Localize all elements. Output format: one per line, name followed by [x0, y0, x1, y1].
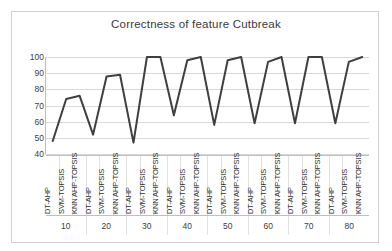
- x-axis-tick-label: DT-AHP: [205, 187, 214, 214]
- x-axis-tick-label: KNN AHP-TOPSIS: [111, 153, 120, 214]
- x-axis-tick-label: KNN AHP-TOPSIS: [151, 153, 160, 214]
- plot-area: [46, 57, 369, 154]
- y-axis-tick-label: 90: [35, 68, 44, 78]
- x-axis-tick-label: KNN AHP-TOPSIS: [313, 153, 322, 214]
- line-series: [46, 57, 369, 154]
- x-axis-group-label: 60: [249, 216, 290, 235]
- y-axis-tick-label: 70: [35, 101, 44, 111]
- x-axis-tick-label: KNN AHP-TOPSIS: [273, 153, 282, 214]
- x-axis-group-label: 50: [208, 216, 249, 235]
- x-axis-tick-label: SVM-TOPSIS: [138, 169, 147, 214]
- x-axis-group-label: 30: [127, 216, 168, 235]
- x-axis-tick-label: SVM-TOPSIS: [259, 169, 268, 214]
- x-axis-group-label: 40: [168, 216, 209, 235]
- chart-title: Correctness of feature Cutbreak: [12, 18, 380, 30]
- plot-background: [46, 57, 369, 154]
- chart-container: Correctness of feature Cutbreak 10090807…: [11, 11, 379, 243]
- x-axis-tick-label: KNN AHP-TOPSIS: [232, 153, 241, 214]
- x-axis-tick-label: SVM-TOPSIS: [57, 169, 66, 214]
- x-axis-tick-label: SVM-TOPSIS: [219, 169, 228, 214]
- x-axis-tick: KNN AHP-TOPSIS: [357, 156, 370, 215]
- x-axis-tick-label: DT-AHP: [124, 187, 133, 214]
- y-axis-labels: 100908070605040: [18, 57, 44, 154]
- y-axis-tick-label: 80: [35, 84, 44, 94]
- y-axis-tick-label: 40: [35, 149, 44, 159]
- x-axis-tick-label: SVM-TOPSIS: [178, 169, 187, 214]
- x-axis-tick-label: SVM-TOPSIS: [340, 169, 349, 214]
- x-axis-tick-label: DT-AHP: [165, 187, 174, 214]
- y-axis-tick-label: 60: [35, 117, 44, 127]
- y-axis-tick-label: 100: [30, 52, 44, 62]
- x-axis-tick-label: KNN AHP-TOPSIS: [192, 153, 201, 214]
- x-axis-labels: DT-AHPSVM-TOPSISKNN AHP-TOPSISDT-AHPSVM-…: [46, 155, 369, 215]
- x-axis-tick-label: DT-AHP: [246, 187, 255, 214]
- x-axis-tick-label: DT-AHP: [327, 187, 336, 214]
- x-axis-tick-label: DT-AHP: [84, 187, 93, 214]
- x-axis-tick-label: DT-AHP: [286, 187, 295, 214]
- x-axis-group-label: 80: [330, 216, 370, 235]
- x-axis-group-label: 70: [289, 216, 330, 235]
- x-axis-tick-label: SVM-TOPSIS: [97, 169, 106, 214]
- x-axis-group-label: 20: [87, 216, 128, 235]
- x-axis-group-labels: 1020304050607080: [46, 215, 369, 235]
- x-axis-tick-label: SVM-TOPSIS: [300, 169, 309, 214]
- y-axis-tick-label: 50: [35, 133, 44, 143]
- x-axis-tick-label: KNN AHP-TOPSIS: [354, 153, 363, 214]
- x-axis-group-label: 10: [46, 216, 87, 235]
- x-axis-tick-label: DT-AHP: [43, 187, 52, 214]
- series-polyline: [53, 57, 363, 143]
- x-axis-tick-label: KNN AHP-TOPSIS: [70, 153, 79, 214]
